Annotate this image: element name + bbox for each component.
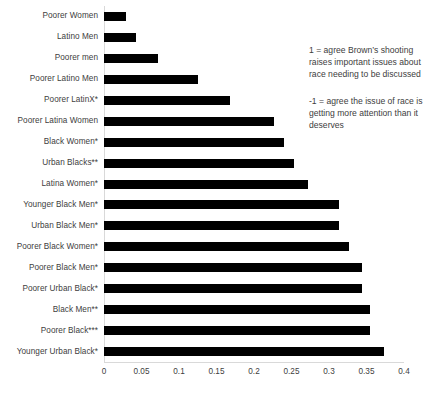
x-tick-label: 0 [102,366,107,377]
x-tick-label: 0.05 [134,366,150,377]
bar-row [104,12,404,21]
bar [104,96,230,105]
bar-row [104,180,404,189]
category-label: Poorer Black Men* [0,263,98,273]
category-label: Poorer Urban Black* [0,284,98,294]
bar [104,138,284,147]
bar-row [104,305,404,314]
bar [104,159,294,168]
x-tick-label: 0.2 [248,366,259,377]
x-tick-label: 0.1 [173,366,184,377]
bar [104,200,339,209]
bar-row [104,221,404,230]
bar [104,305,370,314]
bar-row [104,284,404,293]
x-axis-line [104,362,404,363]
category-label: Poorer LatinX* [0,95,98,105]
category-label: Latina Women* [0,179,98,189]
bar-row [104,33,404,42]
x-tick-label: 0.3 [323,366,334,377]
category-label: Urban Black Men* [0,221,98,231]
category-label: Poorer Black*** [0,326,98,336]
bar [104,180,308,189]
x-tick-label: 0.15 [209,366,225,377]
bar-row [104,138,404,147]
category-label: Urban Blacks** [0,158,98,168]
bar-chart: Poorer WomenLatino MenPoorer menPoorer L… [0,0,433,396]
bar-row [104,326,404,335]
bar [104,12,126,21]
category-label: Poorer men [0,53,98,63]
category-label: Younger Black Men* [0,200,98,210]
bar [104,263,362,272]
bar [104,117,274,126]
x-tick-label: 0.25 [284,366,300,377]
bar [104,326,370,335]
bar [104,54,158,63]
bar-row [104,242,404,251]
x-tick-label: 0.35 [359,366,375,377]
bar [104,284,362,293]
annotation-negative-scale: -1 = agree the issue of race is getting … [309,95,429,132]
bar [104,75,198,84]
category-label: Younger Urban Black* [0,347,98,357]
category-label: Poorer Latina Women [0,116,98,126]
bar-row [104,347,404,356]
category-label: Black Women* [0,137,98,147]
category-label: Black Men** [0,305,98,315]
category-label: Poorer Black Women* [0,242,98,252]
bar-row [104,200,404,209]
category-axis-labels: Poorer WomenLatino MenPoorer menPoorer L… [0,6,98,362]
category-label: Poorer Latino Men [0,74,98,84]
bar-row [104,263,404,272]
x-tick-label: 0.4 [398,366,409,377]
bar [104,33,136,42]
annotation-positive-scale: 1 = agree Brown’s shooting raises import… [309,44,429,81]
bar [104,347,384,356]
annotation-block: 1 = agree Brown’s shooting raises import… [309,44,429,131]
x-axis-tick-labels: 00.050.10.150.20.250.30.350.4 [0,366,433,382]
bar-row [104,159,404,168]
bar [104,242,349,251]
category-label: Latino Men [0,32,98,42]
category-label: Poorer Women [0,11,98,21]
bar [104,221,339,230]
